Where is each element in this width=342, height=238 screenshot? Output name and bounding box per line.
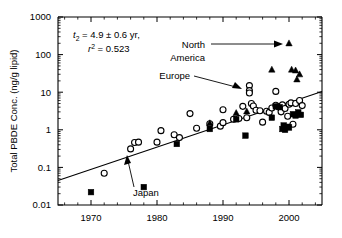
y-tick-label: 1 [46,124,51,135]
data-point-open-circle [128,146,134,152]
callout-north-america-line2: America [170,52,206,63]
data-point-filled-square [243,133,249,139]
x-tick-label: 1970 [80,212,101,223]
data-points-group [88,40,305,195]
callout-japan-label: Japan [133,187,159,198]
fit-statistics-annotation: t2 = 4.9 ± 0.6 yr, r2 = 0.523 [73,29,140,54]
data-point-filled-square [269,115,275,121]
y-tick-label: 0.01 [33,199,52,210]
callout-europe: Europe [159,70,242,89]
scatter-plot-canvas: 0.010.11101001000 1970198019902000 Total… [0,0,342,238]
x-tick-label: 1990 [212,212,233,223]
r-squared-value: = 0.523 [95,43,130,54]
half-life-annotation: t2 = 4.9 ± 0.6 yr, [73,29,140,42]
callout-europe-arrow [194,76,236,87]
half-life-value: = 4.9 ± 0.6 yr, [79,29,139,40]
callout-japan-arrow [128,161,134,187]
data-point-filled-triangle [233,110,239,116]
callout-north-america-line1: North [182,39,205,50]
data-point-open-circle [260,119,266,125]
data-point-open-circle [240,103,246,109]
data-point-filled-square [88,189,94,195]
y-tick-label: 10 [40,87,51,98]
data-point-open-circle [246,90,252,96]
callout-japan: Japan [124,155,159,198]
callout-europe-arrowhead [232,82,242,89]
data-point-filled-square [174,141,180,147]
pbde-trend-figure: 0.010.11101001000 1970198019902000 Total… [0,0,342,238]
x-tick-label: 2000 [278,212,299,223]
data-point-filled-square [233,117,239,123]
data-point-open-circle [158,128,164,134]
callout-europe-label: Europe [159,70,190,81]
y-axis-title: Total PBDE Conc. (ng/g lipid) [8,49,19,172]
data-point-open-circle [194,125,200,131]
data-point-filled-square [277,104,283,110]
series-japan [88,104,303,195]
data-point-open-circle [220,107,226,113]
data-point-open-circle [101,170,107,176]
data-point-open-circle [176,135,182,141]
data-point-filled-triangle [269,66,275,72]
r-squared-annotation: r2 = 0.523 [88,43,130,55]
y-axis-tick-labels: 0.010.11101001000 [30,11,51,210]
data-point-open-circle [285,113,291,119]
y-tick-label: 0.1 [38,162,51,173]
data-point-filled-square [286,125,292,131]
series-europe [101,83,305,177]
callout-north-america: North America [170,39,283,63]
data-point-open-circle [244,115,250,121]
y-tick-label: 1000 [30,11,51,22]
x-axis-tick-labels: 1970198019902000 [80,212,299,223]
data-point-open-circle [220,120,226,126]
data-point-open-circle [136,139,142,145]
callout-north-america-arrowhead [274,41,283,48]
data-point-filled-square [207,126,213,132]
y-tick-label: 100 [35,49,51,60]
data-point-open-circle [154,139,160,145]
data-point-filled-triangle [286,40,292,46]
x-tick-label: 1980 [146,212,167,223]
data-point-filled-square [298,112,304,118]
data-point-open-circle [187,111,193,117]
data-point-open-circle [299,103,305,109]
data-point-open-circle [273,88,279,94]
data-point-open-circle [257,108,263,114]
